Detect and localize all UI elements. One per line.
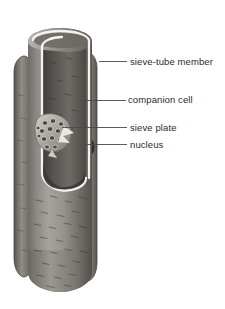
sieve-tube-lumen: [42, 36, 86, 189]
label-nucleus: nucleus: [130, 139, 163, 150]
label-sieve-plate: sieve plate: [130, 122, 177, 133]
label-companion-cell: companion cell: [128, 94, 193, 105]
sieve-tube-diagram: [0, 0, 225, 309]
label-sieve-tube-member: sieve-tube member: [130, 56, 213, 67]
